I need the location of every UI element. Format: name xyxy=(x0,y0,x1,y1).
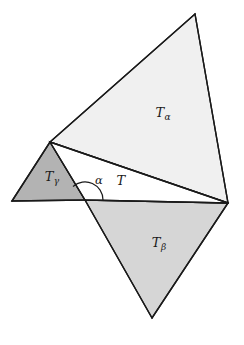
label-triangle-gamma: Tγ xyxy=(45,170,59,186)
label-gamma-base: T xyxy=(45,169,54,184)
label-beta-subscript: β xyxy=(161,242,166,252)
label-alpha-subscript: α xyxy=(164,112,170,122)
geometric-figure: Tα Tβ Tγ T α xyxy=(0,0,244,345)
edge-base-left-to-apex xyxy=(12,200,85,201)
label-center-base: T xyxy=(116,173,125,188)
label-triangle-alpha: Tα xyxy=(155,106,170,122)
triangle-beta-shape xyxy=(85,200,228,318)
label-triangle-beta: Tβ xyxy=(152,236,166,252)
label-beta-base: T xyxy=(152,235,161,250)
label-angle-alpha: α xyxy=(95,175,103,187)
angle-alpha-text: α xyxy=(95,173,103,187)
label-alpha-base: T xyxy=(155,105,164,120)
label-gamma-subscript: γ xyxy=(54,176,59,186)
label-triangle-center: T xyxy=(116,174,125,190)
